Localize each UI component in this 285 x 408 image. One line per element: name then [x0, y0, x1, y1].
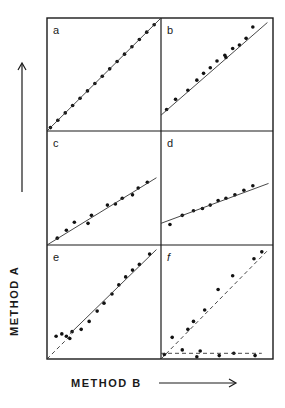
data-point — [208, 66, 212, 70]
data-point — [87, 320, 91, 324]
data-point — [202, 72, 206, 76]
data-point — [198, 349, 202, 353]
panel-b — [161, 23, 267, 116]
y-axis-label-text: METHOD A — [8, 266, 20, 336]
fit-line — [161, 250, 269, 359]
data-point — [260, 250, 264, 254]
data-point — [180, 348, 184, 352]
data-point — [216, 288, 220, 292]
data-point — [186, 328, 190, 332]
data-point — [174, 98, 178, 102]
data-point — [60, 332, 64, 336]
data-point — [73, 220, 77, 224]
data-point — [65, 228, 69, 232]
x-axis-label: METHOD B — [71, 377, 142, 389]
panel-c — [47, 178, 156, 245]
x-axis-arrow-icon — [159, 379, 236, 387]
figure-canvas: a b c d e f — [0, 0, 285, 408]
fit-line — [47, 178, 156, 245]
data-point — [195, 355, 199, 359]
panel-label-e: e — [53, 251, 59, 263]
data-point — [95, 309, 99, 313]
panel-d — [161, 183, 269, 226]
fit-line — [47, 334, 72, 359]
data-point — [203, 308, 207, 312]
data-point — [86, 222, 90, 226]
panel-e — [47, 250, 156, 359]
panel-f — [161, 250, 269, 359]
data-point — [242, 188, 246, 192]
data-point — [170, 336, 174, 340]
panel-label-c: c — [53, 137, 59, 149]
panel-label-a: a — [53, 24, 60, 36]
data-point — [251, 25, 255, 29]
fit-line — [47, 18, 161, 131]
y-axis-arrow-icon — [18, 63, 26, 192]
panel-label-d: d — [167, 137, 173, 149]
fit-line — [161, 183, 269, 223]
data-point — [65, 334, 69, 338]
fit-line — [161, 23, 267, 116]
data-point — [253, 354, 257, 358]
data-point — [231, 47, 235, 51]
data-point — [106, 203, 110, 207]
data-point — [231, 274, 235, 278]
fit-line — [70, 250, 157, 334]
y-axis-label: METHOD A — [8, 236, 28, 336]
data-point — [251, 184, 255, 188]
data-point — [168, 223, 172, 227]
data-point — [195, 78, 199, 82]
figure-frame — [47, 18, 273, 359]
panel-label-f: f — [167, 251, 171, 263]
panel-label-b: b — [167, 24, 173, 36]
panel-a — [47, 18, 161, 131]
data-point — [215, 59, 219, 63]
data-point — [192, 320, 196, 324]
data-point — [54, 334, 58, 338]
data-point — [217, 354, 221, 358]
data-point — [79, 328, 83, 332]
data-point — [252, 257, 256, 261]
